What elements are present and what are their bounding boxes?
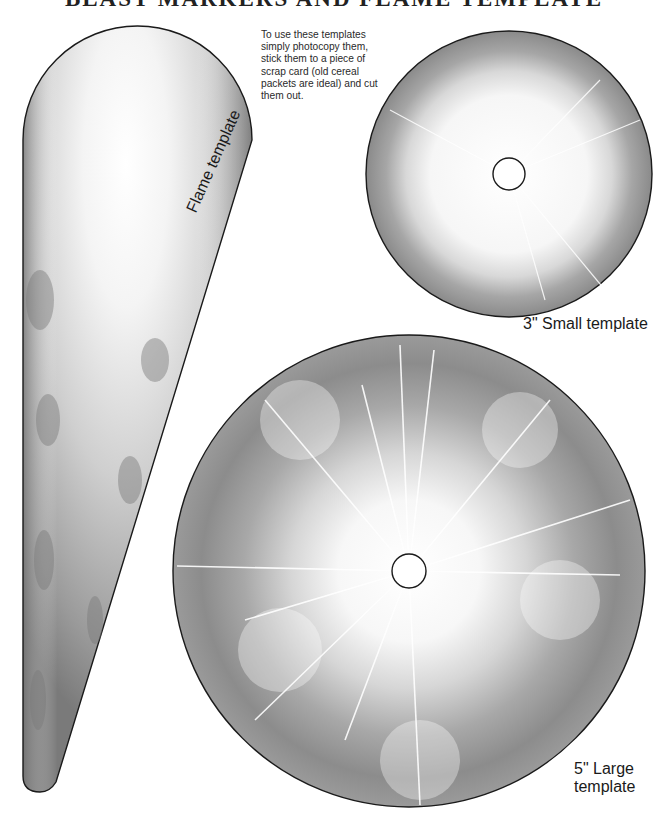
templates-artwork bbox=[0, 0, 668, 826]
large-blast-template bbox=[173, 335, 645, 807]
large-template-label-line1: 5" Large bbox=[574, 760, 634, 778]
small-template-center-hole bbox=[493, 158, 525, 190]
large-template-label-line2: template bbox=[574, 778, 634, 796]
small-blast-template bbox=[366, 31, 652, 317]
large-template-center-hole bbox=[392, 554, 426, 588]
small-template-label: 3" Small template bbox=[523, 315, 648, 333]
large-template-label: 5" Large template bbox=[574, 760, 634, 796]
